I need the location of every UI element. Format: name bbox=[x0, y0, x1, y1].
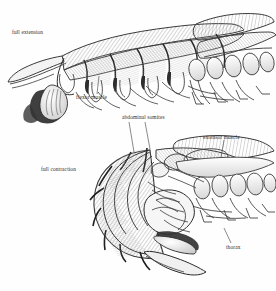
label-flexor-muscle: flexor muscle bbox=[76, 95, 107, 100]
label-extensor-muscle: extensor muscle bbox=[203, 135, 240, 140]
abdominal-somites-leader-1 bbox=[129, 122, 134, 152]
abdominal-somites-leader-2 bbox=[145, 122, 150, 149]
telson-tail-fan-extended bbox=[193, 13, 276, 58]
anatomical-figure: full extension flexor muscle abdominal s… bbox=[0, 0, 276, 291]
label-full-extension: full extension bbox=[12, 30, 43, 35]
label-thorax: thorax bbox=[226, 245, 241, 250]
thorax-leader bbox=[224, 228, 231, 243]
cephalothorax-contracted bbox=[144, 190, 194, 234]
raptorial-appendage-extended bbox=[23, 85, 67, 123]
thoracic-legs-contracted bbox=[192, 198, 275, 222]
label-full-contraction: full contraction bbox=[41, 167, 76, 172]
lower-specimen-full-contraction bbox=[90, 136, 276, 276]
head-carapace-rostrum-extended bbox=[8, 56, 74, 95]
label-abdominal-somites: abdominal somites bbox=[122, 115, 165, 120]
upper-specimen-full-extension bbox=[8, 13, 276, 123]
thoracic-legs-extended bbox=[188, 80, 270, 104]
